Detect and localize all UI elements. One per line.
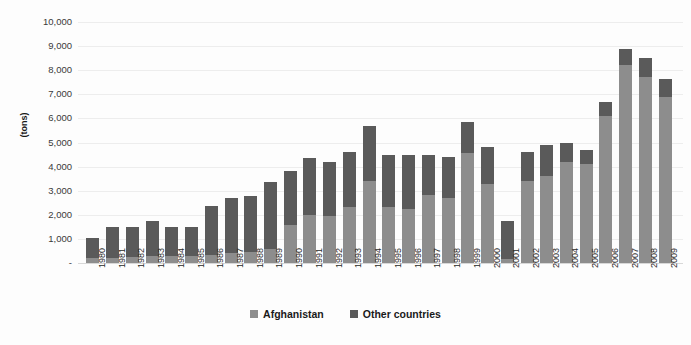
bar-group <box>264 22 277 263</box>
bar-group <box>619 22 632 263</box>
legend-swatch-afghanistan <box>250 310 258 318</box>
bar-segment-afghanistan <box>619 65 632 263</box>
bar-segment-afghanistan <box>599 116 612 263</box>
bar-segment-other-countries <box>481 147 494 184</box>
stacked-bar <box>422 155 435 263</box>
bar-group <box>303 22 316 263</box>
bar-group <box>599 22 612 263</box>
stacked-bar <box>382 155 395 263</box>
bar-segment-other-countries <box>303 158 316 215</box>
bar-group <box>284 22 297 263</box>
stacked-bar <box>639 58 652 263</box>
bar-segment-other-countries <box>382 155 395 207</box>
bar-segment-other-countries <box>599 102 612 116</box>
bar-group <box>244 22 257 263</box>
bar-segment-afghanistan <box>461 153 474 263</box>
stacked-bar <box>619 49 632 263</box>
bar-segment-other-countries <box>343 152 356 207</box>
bar-segment-other-countries <box>540 145 553 176</box>
bar-segment-other-countries <box>619 49 632 66</box>
legend-label: Other countries <box>363 309 441 319</box>
y-axis-ticks: -1,0002,0003,0004,0005,0006,0007,0008,00… <box>0 0 78 345</box>
bar-segment-other-countries <box>442 157 455 198</box>
stacked-bar <box>580 150 593 263</box>
bar-segment-afghanistan <box>659 97 672 263</box>
bar-segment-other-countries <box>422 155 435 196</box>
bar-segment-other-countries <box>225 198 238 253</box>
bar-group <box>540 22 553 263</box>
y-axis-tick-label: 5,000 <box>48 137 72 149</box>
bar-segment-other-countries <box>363 126 376 181</box>
bar-group <box>185 22 198 263</box>
bar-group <box>580 22 593 263</box>
stacked-bar <box>363 126 376 263</box>
bar-group <box>205 22 218 263</box>
bar-group <box>343 22 356 263</box>
bar-group <box>323 22 336 263</box>
y-axis-title: (tons) <box>19 95 29 155</box>
bar-segment-other-countries <box>244 196 257 253</box>
y-axis-tick-label: 2,000 <box>48 209 72 221</box>
y-axis-tick-label: 7,000 <box>48 88 72 100</box>
legend-item[interactable]: Afghanistan <box>250 309 324 319</box>
bar-segment-other-countries <box>264 182 277 248</box>
stacked-bar <box>659 79 672 263</box>
y-axis-tick-label: 3,000 <box>48 185 72 197</box>
bar-group <box>461 22 474 263</box>
bar-segment-other-countries <box>580 150 593 164</box>
legend-item[interactable]: Other countries <box>350 309 441 319</box>
y-axis-tick-label: 10,000 <box>43 16 72 28</box>
bar-group <box>146 22 159 263</box>
bar-segment-other-countries <box>560 143 573 162</box>
bar-group <box>481 22 494 263</box>
bar-group <box>521 22 534 263</box>
stacked-bar <box>402 155 415 263</box>
stacked-bar <box>343 152 356 263</box>
bar-group <box>659 22 672 263</box>
stacked-bar <box>599 102 612 263</box>
bar-group <box>363 22 376 263</box>
stacked-bar <box>560 143 573 264</box>
bar-segment-other-countries <box>521 152 534 181</box>
bar-group <box>86 22 99 263</box>
bar-group <box>422 22 435 263</box>
stacked-bar <box>521 152 534 263</box>
y-axis-tick-label: - <box>69 257 72 269</box>
y-axis-tick-label: 8,000 <box>48 64 72 76</box>
bar-segment-other-countries <box>659 79 672 97</box>
bar-segment-other-countries <box>284 171 297 225</box>
legend-swatch-other-countries <box>350 310 358 318</box>
bar-group <box>501 22 514 263</box>
y-axis-tick-label: 1,000 <box>48 233 72 245</box>
bar-segment-other-countries <box>639 58 652 77</box>
bar-group <box>126 22 139 263</box>
bar-group <box>225 22 238 263</box>
y-axis-tick-label: 6,000 <box>48 112 72 124</box>
bar-group <box>560 22 573 263</box>
x-axis-tick-label: 2009 <box>669 248 679 268</box>
bar-group <box>442 22 455 263</box>
stacked-bar <box>540 145 553 263</box>
stacked-bar <box>461 122 474 263</box>
plot-area: 1980198119821983198419851986198719881989… <box>78 0 683 345</box>
bar-segment-other-countries <box>323 162 336 216</box>
bar-segment-other-countries <box>402 155 415 209</box>
stacked-bar <box>481 147 494 263</box>
legend-label: Afghanistan <box>263 309 324 319</box>
y-axis-tick-label: 4,000 <box>48 161 72 173</box>
bar-segment-afghanistan <box>639 77 652 263</box>
y-axis-tick-label: 9,000 <box>48 40 72 52</box>
opium-production-stacked-bar-chart: -1,0002,0003,0004,0005,0006,0007,0008,00… <box>0 0 691 345</box>
chart-legend: AfghanistanOther countries <box>0 309 691 319</box>
bar-group <box>639 22 652 263</box>
bar-group <box>106 22 119 263</box>
bar-segment-other-countries <box>461 122 474 153</box>
bar-group <box>382 22 395 263</box>
bar-group <box>402 22 415 263</box>
bar-group <box>165 22 178 263</box>
